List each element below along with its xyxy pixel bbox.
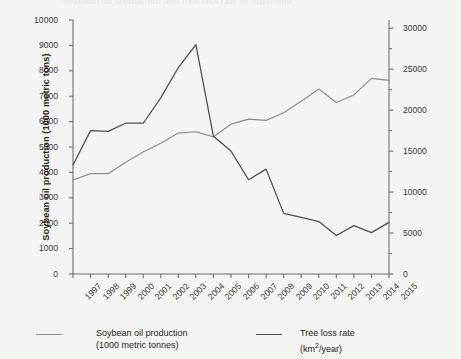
right-axis-tick-labels: 050001000015000200002500030000	[403, 0, 449, 300]
legend-label-soybean-line2: (1000 metric tonnes)	[96, 340, 179, 352]
series-line-treeloss	[73, 45, 389, 236]
series-line-soybean	[73, 78, 389, 180]
right-axis-tick-label: 20000	[403, 105, 427, 115]
right-axis-tick-label: 5000	[403, 228, 422, 238]
left-axis-title: Soybean oil production (1000 metric tons…	[41, 22, 51, 272]
chart-figure: Soybean oil production and tree loss rat…	[0, 0, 461, 359]
plot-area	[0, 0, 461, 359]
legend-label-soybean-line1: Soybean oil production	[96, 328, 188, 340]
left-axis-tick-label: 0	[53, 269, 58, 279]
legend-label-treeloss-line2: (km2/year)	[300, 340, 342, 356]
chart-legend: Soybean oil production (1000 metric tonn…	[0, 326, 461, 359]
right-axis-tick-label: 0	[403, 269, 408, 279]
right-axis-tick-label: 30000	[403, 23, 427, 33]
data-series-group	[73, 45, 389, 236]
legend-swatch-treeloss	[256, 334, 282, 335]
legend-swatch-soybean	[36, 334, 62, 335]
left-axis-tick-labels: 0100020003000400050006000700080009000100…	[18, 0, 58, 300]
right-axis-tick-label: 10000	[403, 187, 427, 197]
legend-label-treeloss-line1: Tree loss rate	[300, 328, 355, 340]
axis-lines	[69, 20, 394, 278]
legend-label-treeloss-unit-tail: /year)	[319, 344, 342, 354]
right-axis-tick-label: 25000	[403, 64, 427, 74]
right-axis-tick-label: 15000	[403, 146, 427, 156]
legend-label-treeloss-unit-main: (km	[300, 344, 315, 354]
